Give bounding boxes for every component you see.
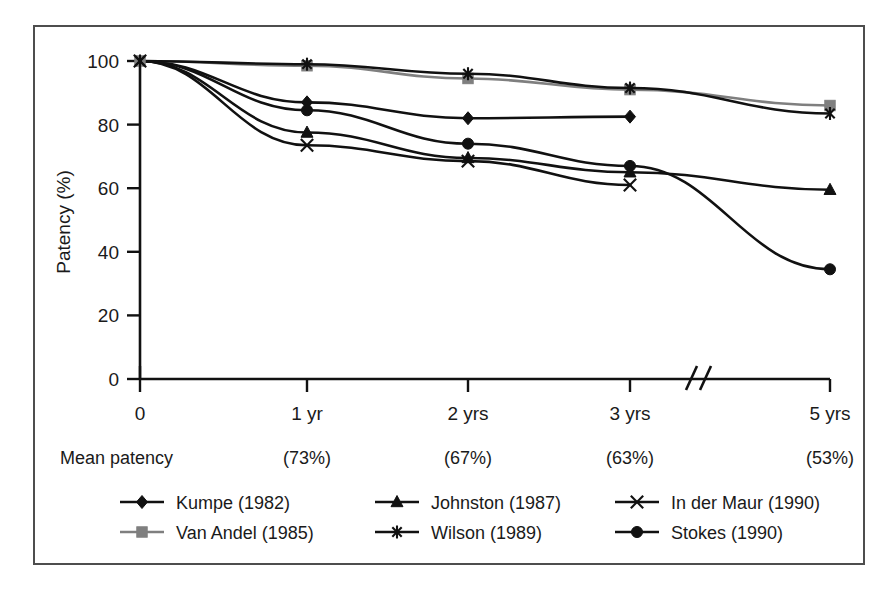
legend-item[interactable]: Johnston (1987)	[375, 493, 561, 513]
mean-patency-value: (67%)	[444, 448, 492, 468]
series-line	[140, 61, 830, 269]
x-tick-label: 0	[135, 403, 146, 424]
x-axis-group: 01 yr2 yrs3 yrs5 yrs	[135, 366, 851, 424]
x-tick-label: 1 yr	[291, 403, 323, 424]
series-line	[140, 61, 830, 190]
marker-diamond	[624, 110, 635, 123]
legend-item[interactable]: Stokes (1990)	[615, 523, 783, 543]
legend-label: Wilson (1989)	[431, 523, 542, 543]
legend-item[interactable]: In der Maur (1990)	[615, 493, 820, 513]
y-axis-group: 020406080100 Patency (%)	[53, 51, 140, 390]
marker-circle	[462, 138, 473, 149]
y-axis-tick-labels: 020406080100	[87, 51, 119, 390]
y-tick-label: 80	[98, 115, 119, 136]
y-tick-label: 40	[98, 242, 119, 263]
chart-legend: Kumpe (1982)Johnston (1987)In der Maur (…	[120, 493, 820, 543]
x-tick-label: 5 yrs	[809, 403, 850, 424]
marker-circle	[824, 264, 835, 275]
mean-patency-value: (73%)	[283, 448, 331, 468]
marker-circle	[631, 526, 642, 537]
legend-label: Stokes (1990)	[671, 523, 783, 543]
legend-item[interactable]: Wilson (1989)	[375, 523, 542, 543]
mean-patency-value: (53%)	[806, 448, 854, 468]
y-axis-ticks	[127, 61, 140, 379]
x-tick-label: 2 yrs	[447, 403, 488, 424]
series-layer	[134, 55, 836, 275]
x-tick-label: 3 yrs	[609, 403, 650, 424]
legend-label: Van Andel (1985)	[176, 523, 314, 543]
series-2	[140, 61, 836, 194]
y-tick-label: 20	[98, 305, 119, 326]
figure-root: 020406080100 Patency (%) 01 yr2 yrs3 yrs…	[0, 0, 894, 596]
y-tick-label: 0	[108, 369, 119, 390]
mean-patency-values: (73%)(67%)(63%)(53%)	[283, 448, 854, 468]
series-1	[140, 61, 835, 111]
legend-label: Kumpe (1982)	[176, 493, 290, 513]
x-axis-tick-labels: 01 yr2 yrs3 yrs5 yrs	[135, 403, 851, 424]
legend-item[interactable]: Kumpe (1982)	[120, 493, 290, 513]
mean-patency-row: Mean patency (73%)(67%)(63%)(53%)	[60, 448, 854, 468]
patency-line-chart: 020406080100 Patency (%) 01 yr2 yrs3 yrs…	[0, 0, 894, 596]
y-tick-label: 60	[98, 178, 119, 199]
y-axis-title: Patency (%)	[53, 170, 74, 273]
marker-diamond	[462, 112, 473, 125]
series-0	[140, 61, 636, 125]
legend-label: Johnston (1987)	[431, 493, 561, 513]
mean-patency-value: (63%)	[606, 448, 654, 468]
legend-item[interactable]: Van Andel (1985)	[120, 523, 314, 543]
origin-marker-cluster	[134, 55, 146, 68]
marker-square	[137, 527, 147, 537]
marker-circle	[624, 160, 635, 171]
y-tick-label: 100	[87, 51, 119, 72]
series-5	[140, 61, 836, 275]
legend-label: In der Maur (1990)	[671, 493, 820, 513]
mean-patency-label: Mean patency	[60, 448, 173, 468]
marker-circle	[301, 105, 312, 116]
series-line	[140, 61, 830, 113]
marker-diamond	[136, 496, 147, 509]
